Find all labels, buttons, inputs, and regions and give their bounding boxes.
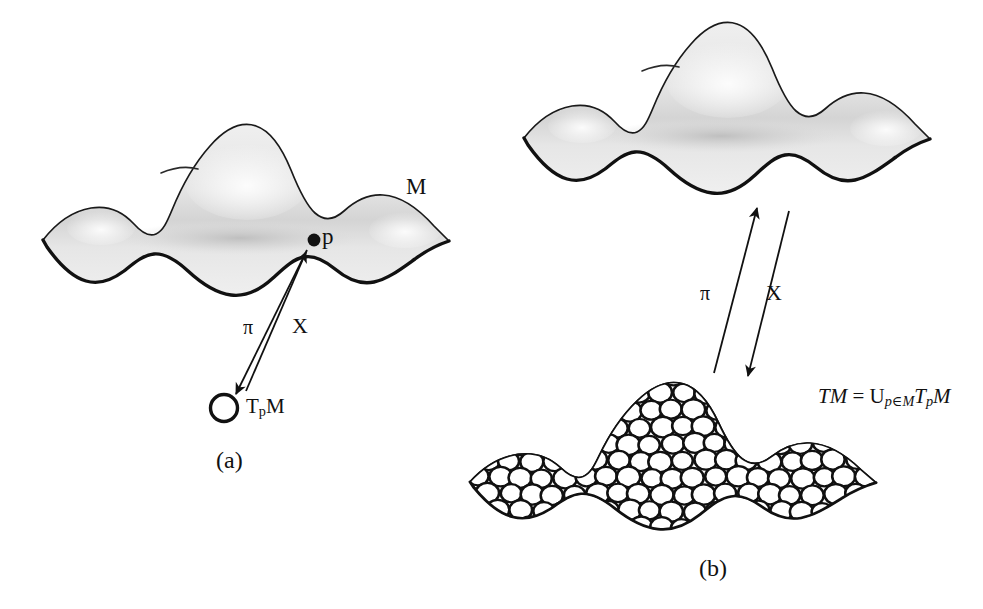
- tangent-space-sphere: [444, 400, 468, 420]
- tangent-space-sphere: [457, 450, 479, 469]
- tangent-space-sphere: [878, 367, 899, 385]
- tangent-space-sphere: [510, 435, 534, 455]
- tangent-space-sphere: [444, 368, 467, 388]
- tangent-space-sphere: [867, 516, 891, 536]
- tangent-space-sphere: [823, 416, 847, 436]
- tangent-space-sphere: [510, 366, 534, 386]
- tangent-space-sphere: [475, 385, 499, 405]
- tangent-space-sphere: [573, 400, 596, 420]
- pi-arrow-b: [714, 208, 757, 373]
- tangent-space-sphere: [563, 385, 584, 403]
- tangent-space-sphere: [662, 434, 684, 453]
- tangent-space-sphere: [468, 402, 490, 421]
- tangent-space-sphere: [455, 519, 478, 539]
- tangent-space-sphere: [727, 368, 750, 388]
- equation-union-symbol: U: [870, 384, 885, 408]
- tangent-space-sphere: [717, 519, 739, 538]
- tangent-space-sphere: [499, 385, 521, 404]
- tangent-space-sphere: [531, 367, 552, 385]
- tangent-space-sphere: [575, 368, 598, 388]
- x-label-b: X: [766, 282, 782, 304]
- tangent-bundle-figure: M p π X TpM (a) π X TM = Up∈MTpM (b): [0, 0, 983, 609]
- tangent-space-sphere: [574, 503, 596, 522]
- tangent-space-sphere: [574, 433, 596, 452]
- tangent-space-sphere: [519, 418, 542, 437]
- tangent-space-sphere: [713, 385, 736, 405]
- tangent-space-sphere: [737, 385, 758, 403]
- tangent-space-sphere: [477, 418, 501, 438]
- tangent-space-sphere: [488, 402, 510, 421]
- tangent-space-sphere: [660, 400, 682, 419]
- tangent-space-sphere: [770, 436, 792, 455]
- tangent-space-sphere: [748, 366, 771, 386]
- tangent-space-sphere: [802, 519, 825, 539]
- tangent-space-sphere: [857, 500, 879, 519]
- tangent-space-sphere: [522, 383, 544, 402]
- tangent-space-sphere: [801, 451, 823, 470]
- tangent-space-sphere: [835, 433, 858, 453]
- tangent-space-sphere: [879, 469, 900, 487]
- tangent-space-sphere: [543, 452, 566, 472]
- tangent-space-sphere: [554, 399, 577, 419]
- tangent-space-circle-a: [211, 395, 238, 422]
- x-label-a: X: [292, 315, 308, 337]
- point-p-label: p: [322, 225, 334, 248]
- tangent-space-sphere: [855, 435, 878, 455]
- tangent-space-sphere: [845, 519, 866, 537]
- tangent-space-sphere: [607, 518, 628, 536]
- tangent-space-sphere: [756, 516, 780, 536]
- tangent-space-sphere: [445, 432, 469, 452]
- tangent-space-sphere: [867, 451, 890, 471]
- tangent-space-sphere: [803, 416, 825, 435]
- tangent-space-sphere: [596, 402, 617, 420]
- tangent-space-sphere: [487, 435, 509, 454]
- manifold-surface-b: [524, 23, 930, 194]
- tangent-space-sphere: [693, 519, 717, 539]
- tangent-space-sphere: [565, 520, 587, 539]
- tangent-space-sphere: [757, 418, 781, 438]
- pi-label-a: π: [243, 317, 253, 337]
- tangent-space-sphere: [725, 402, 748, 422]
- panel-b-group: [443, 23, 930, 540]
- tangent-space-sphere: [781, 518, 802, 536]
- tangent-space-sphere: [822, 519, 845, 538]
- tangent-space-sphere: [532, 435, 553, 453]
- tangent-space-sphere: [445, 502, 469, 522]
- tangent-space-sphere: [714, 484, 736, 503]
- tangent-space-sphere: [597, 369, 618, 387]
- tangent-space-sphere: [791, 399, 815, 419]
- equation-lhs: TM: [818, 384, 847, 408]
- tangent-space-label-a: TpM: [246, 396, 285, 418]
- tangent-space-label-main: T: [246, 394, 259, 418]
- tangent-space-sphere: [736, 517, 758, 536]
- tangent-space-sphere: [465, 368, 487, 387]
- tangent-space-sphere: [746, 401, 769, 421]
- tangent-space-sphere: [499, 518, 520, 536]
- panel-b-caption: (b): [699, 556, 727, 580]
- tangent-space-sphere: [532, 400, 553, 418]
- tangent-space-sphere: [466, 434, 488, 453]
- tangent-space-sphere: [564, 451, 585, 469]
- tangent-space-sphere: [489, 368, 510, 386]
- tangent-space-sphere: [639, 366, 661, 385]
- tangent-space-sphere: [542, 382, 566, 402]
- tangent-space-sphere: [866, 419, 889, 439]
- tangent-space-sphere: [705, 502, 726, 520]
- tangent-space-sphere: [876, 436, 897, 454]
- equation-rhs-main: T: [914, 384, 926, 408]
- pi-label-b: π: [700, 283, 710, 303]
- tangent-space-sphere: [585, 417, 609, 437]
- tangent-space-sphere: [551, 433, 574, 453]
- tangent-space-sphere: [585, 385, 608, 405]
- tangent-space-sphere: [508, 401, 532, 421]
- equation-union-subscript: p∈M: [885, 393, 915, 409]
- panel-a-group: [43, 125, 449, 422]
- equation-equals: =: [847, 384, 869, 408]
- tangent-space-sphere: [543, 518, 565, 537]
- tangent-space-sphere: [844, 419, 865, 437]
- panel-a-caption: (a): [216, 448, 243, 472]
- figure-canvas: [0, 0, 983, 609]
- manifold-label-a: M: [406, 175, 426, 198]
- tangent-space-sphere: [443, 467, 467, 487]
- tangent-space-sphere: [672, 417, 693, 435]
